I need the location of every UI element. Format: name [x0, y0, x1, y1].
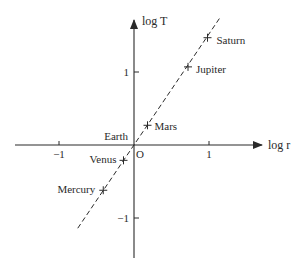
planet-label: Saturn	[217, 34, 246, 46]
x-tick-label: −1	[53, 148, 65, 160]
y-tick-label: 1	[124, 66, 130, 78]
y-tick-label: −1	[117, 212, 129, 224]
origin-label: O	[136, 148, 144, 160]
planet-mars: Mars	[144, 120, 178, 132]
planet-label: Venus	[90, 153, 117, 165]
x-tick-label: 1	[206, 148, 212, 160]
planet-label: Mercury	[57, 183, 95, 195]
planet-venus: Venus	[90, 153, 128, 165]
planet-label: Mars	[155, 120, 178, 132]
planet-jupiter: Jupiter	[184, 63, 226, 75]
planet-mercury: Mercury	[57, 183, 107, 195]
planet-label: Earth	[104, 130, 128, 142]
planet-earth: Earth	[104, 130, 128, 142]
y-axis-label: log T	[142, 14, 168, 28]
planet-label: Jupiter	[196, 63, 226, 75]
kepler-log-log-chart: log r log T O −111−1 MercuryVenusEarthMa…	[0, 0, 305, 272]
planet-saturn: Saturn	[204, 34, 246, 46]
fit-line	[78, 17, 221, 228]
x-axis-label: log r	[268, 138, 290, 152]
planet-points: MercuryVenusEarthMarsJupiterSaturn	[57, 34, 245, 196]
dashed-fit-line	[78, 17, 221, 228]
